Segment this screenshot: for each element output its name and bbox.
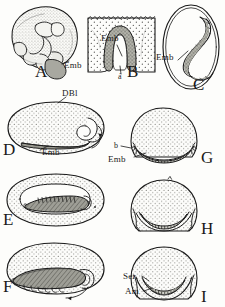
panel-letter-g: G	[201, 149, 213, 166]
panel-letter-a: A	[35, 63, 47, 80]
label-emb-panel-a: Emb	[64, 61, 82, 70]
label-ser-panel-i: Ser	[123, 272, 136, 281]
panel-f-drawing	[7, 243, 104, 300]
illustration-plate: A Emb B Emb á C Emb D DBl Emb E F G b Em…	[0, 0, 225, 307]
label-dbl-panel-d: DBl	[62, 89, 78, 98]
panel-letter-h: H	[201, 220, 213, 237]
label-emb-panel-g: Emb	[108, 155, 126, 164]
label-emb-panel-d: Emb	[42, 148, 60, 157]
panel-letter-c: C	[193, 76, 204, 93]
label-emb-panel-b: Emb	[101, 34, 119, 43]
panel-letter-d: D	[3, 141, 15, 158]
label-am-panel-i: Am	[125, 287, 139, 296]
panel-d-drawing	[8, 97, 104, 154]
panel-i-drawing	[131, 247, 197, 300]
panel-b-drawing	[88, 16, 155, 74]
panel-letter-b: B	[127, 63, 138, 80]
panel-letter-i: I	[201, 288, 207, 305]
panel-letter-f: F	[3, 278, 12, 295]
panel-c-drawing	[163, 5, 219, 89]
label-a-panel-b: á	[118, 73, 122, 81]
panel-letter-e: E	[3, 211, 13, 228]
panel-e-drawing	[7, 174, 104, 226]
panel-g-drawing	[121, 108, 197, 163]
panel-h-drawing	[131, 176, 197, 231]
label-emb-panel-c: Emb	[156, 53, 174, 62]
label-b-panel-g: b	[114, 142, 118, 150]
